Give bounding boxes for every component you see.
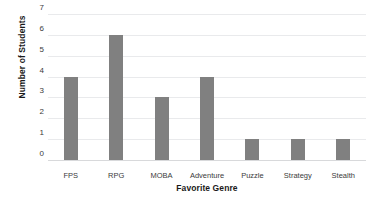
bar[interactable] [291,139,305,160]
bar[interactable] [200,77,214,160]
y-tick-label: 2 [28,108,44,116]
x-slot: FPS [48,164,93,182]
x-tick-label: RPG [108,171,124,180]
bar[interactable] [64,77,78,160]
x-slot: Stealth [321,164,366,182]
bar[interactable] [155,97,169,160]
bars-group [48,14,366,160]
x-axis-tick-labels: FPSRPGMOBAAdventurePuzzleStrategyStealth [48,164,366,182]
bar[interactable] [245,139,259,160]
bar-slot [139,14,184,160]
bar-slot [93,14,138,160]
y-axis-tick-labels: 76543210 [28,8,44,163]
bar-slot [321,14,366,160]
x-tick-label: FPS [63,171,78,180]
y-tick-label: 3 [28,87,44,95]
bar-slot [184,14,229,160]
x-tick-label: Adventure [190,171,224,180]
x-slot: Puzzle [230,164,275,182]
x-axis-title: Favorite Genre [48,183,366,193]
bar[interactable] [336,139,350,160]
bar-slot [48,14,93,160]
plot-area [48,14,366,160]
y-tick-label: 5 [28,46,44,54]
y-tick-label: 4 [28,67,44,75]
bar-slot [275,14,320,160]
x-slot: RPG [93,164,138,182]
x-tick-label: Stealth [332,171,355,180]
x-tick-label: MOBA [151,171,173,180]
axis-baseline [48,160,366,161]
y-tick-label: 0 [28,150,44,158]
bar-slot [230,14,275,160]
y-tick-label: 1 [28,129,44,137]
y-tick-label: 6 [28,25,44,33]
x-slot: Strategy [275,164,320,182]
y-tick-label: 7 [28,4,44,12]
y-axis-title: Number of Students [17,0,27,117]
x-tick-label: Puzzle [241,171,264,180]
x-slot: MOBA [139,164,184,182]
bar-chart: Number of Students 76543210 FPSRPGMOBAAd… [0,0,380,201]
x-slot: Adventure [184,164,229,182]
x-tick-label: Strategy [284,171,312,180]
bar[interactable] [109,35,123,160]
